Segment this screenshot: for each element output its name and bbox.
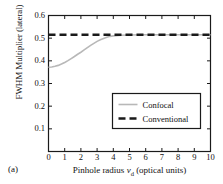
x-axis-tick-label: 1 bbox=[57, 152, 73, 162]
chart-legend: ConfocalConventional bbox=[113, 94, 201, 129]
y-axis-label: FWHM Multiplier (lateral) bbox=[14, 0, 24, 117]
x-axis-tick-label: 4 bbox=[105, 152, 121, 162]
x-axis-tick-label: 9 bbox=[186, 152, 202, 162]
x-axis-label-prefix: Pinhole radius bbox=[73, 165, 127, 175]
x-axis-tick-labels: 012345678910 bbox=[0, 152, 223, 166]
y-axis-tick-label: 0.5 bbox=[25, 34, 45, 43]
x-axis-tick-label: 2 bbox=[73, 152, 89, 162]
y-axis-tick-label: 0.6 bbox=[25, 11, 45, 20]
y-axis-tick-label: 0.1 bbox=[25, 124, 45, 133]
legend-label-conventional: Conventional bbox=[143, 114, 189, 124]
x-axis-tick-label: 3 bbox=[89, 152, 105, 162]
panel-label: (a) bbox=[8, 164, 18, 174]
x-axis-tick-label: 7 bbox=[154, 152, 170, 162]
y-axis-tick-label: 0.3 bbox=[25, 79, 45, 88]
legend-label-confocal: Confocal bbox=[143, 100, 175, 110]
figure-panel-a: FWHM Multiplier (lateral) 0.10.20.30.40.… bbox=[0, 0, 223, 184]
x-axis-label: Pinhole radius vd (optical units) bbox=[48, 165, 211, 177]
x-axis-tick-label: 8 bbox=[170, 152, 186, 162]
x-axis-tick-label: 6 bbox=[138, 152, 154, 162]
x-axis-tick-label: 5 bbox=[122, 152, 138, 162]
y-axis-tick-label: 0.2 bbox=[25, 102, 45, 111]
x-axis-label-suffix: (optical units) bbox=[134, 165, 187, 175]
x-axis-tick-label: 10 bbox=[203, 152, 219, 162]
x-axis-tick-label: 0 bbox=[41, 152, 57, 162]
y-axis-tick-label: 0.4 bbox=[25, 56, 45, 65]
